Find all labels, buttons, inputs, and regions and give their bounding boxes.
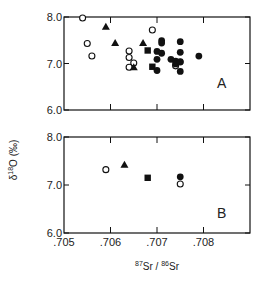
x-axis-mid: Sr / — [143, 261, 161, 272]
y-axis-title: δ18O (‰) — [7, 140, 19, 181]
filled-square-marker — [145, 175, 151, 181]
filled-circle-marker — [177, 58, 184, 65]
panel-a-plot: 6.07.08.0 — [47, 11, 250, 116]
open-circle-marker — [103, 167, 109, 173]
y-tick-label: 8.0 — [47, 11, 62, 23]
open-circle-marker — [80, 15, 86, 21]
open-circle-marker — [89, 53, 95, 59]
filled-circle-marker — [154, 56, 161, 63]
svg-text:δ18O (‰): δ18O (‰) — [7, 140, 19, 181]
x-tick-label: .707 — [146, 236, 167, 248]
filled-triangle-marker — [102, 23, 110, 30]
y-axis-main: O (‰) — [8, 140, 19, 167]
filled-circle-marker — [154, 67, 161, 74]
open-circle-marker — [126, 54, 132, 60]
x-axis-sup2: 86 — [161, 260, 169, 267]
x-axis-end: Sr — [169, 261, 180, 272]
filled-circle-marker — [177, 49, 184, 56]
open-circle-marker — [149, 27, 155, 33]
filled-circle-marker — [177, 38, 184, 45]
open-circle-marker — [126, 48, 132, 54]
x-axis-title: 87Sr / 86Sr — [135, 260, 180, 272]
filled-triangle-marker — [111, 39, 119, 46]
plot-frame — [64, 17, 250, 110]
x-tick-label: .708 — [193, 236, 214, 248]
filled-triangle-marker — [139, 39, 147, 46]
filled-circle-marker — [158, 50, 165, 57]
filled-circle-marker — [158, 40, 165, 47]
filled-circle-marker — [177, 68, 184, 75]
x-tick-label: .706 — [100, 236, 121, 248]
filled-circle-marker — [177, 173, 184, 180]
filled-circle-marker — [195, 53, 202, 60]
y-axis-sup: 18 — [7, 167, 14, 175]
y-tick-label: 8.0 — [47, 131, 62, 143]
y-tick-label: 7.0 — [47, 179, 62, 191]
y-tick-label: 6.0 — [47, 227, 62, 239]
x-axis-sup1: 87 — [135, 260, 143, 267]
filled-square-marker — [145, 47, 151, 53]
panel-b-label: B — [217, 205, 226, 221]
open-circle-marker — [84, 41, 90, 47]
panel-a-label: A — [217, 75, 227, 91]
filled-triangle-marker — [120, 161, 128, 168]
y-tick-label: 6.0 — [47, 104, 62, 116]
panel-b-plot: .705.706.707.7086.07.08.0 — [47, 131, 250, 248]
open-circle-marker — [177, 181, 183, 187]
scatter-figure: 6.07.08.0 .705.706.707.7086.07.08.0 A B … — [0, 0, 264, 288]
y-tick-label: 7.0 — [47, 58, 62, 70]
